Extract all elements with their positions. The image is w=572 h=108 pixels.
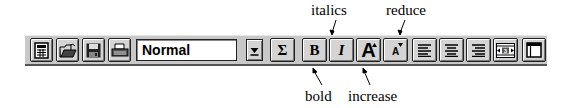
annotation-arrows bbox=[0, 0, 572, 108]
